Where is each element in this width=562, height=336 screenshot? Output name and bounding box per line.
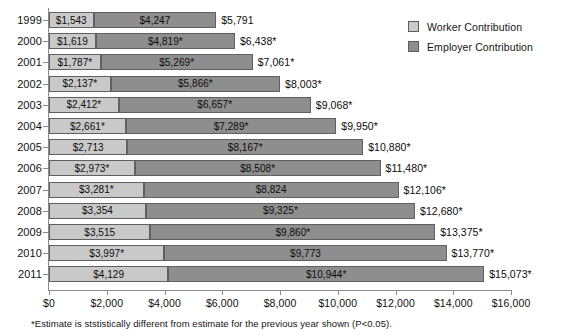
x-axis-tick-label-8000: $8,000 [264,297,297,309]
bar-row: 2004$2,661*$7,289*$9,950* [0,116,562,136]
bar-segment-worker: $3,354 [49,203,146,219]
bar-segment-worker: $1,543 [49,12,94,28]
y-axis-label-2001: 2001 [0,52,42,72]
bar-value-label-worker: $2,661* [70,121,105,132]
bar-segment-employer: $7,289* [126,118,336,134]
bar-segment-employer: $9,860* [150,224,435,240]
bar-value-label-worker: $2,973* [75,163,110,174]
bar-segment-employer: $4,247 [94,12,217,28]
y-axis-label-1999: 1999 [0,10,42,30]
bar-total-label: $9,950* [341,118,378,134]
y-axis-label-2004: 2004 [0,116,42,136]
bar-value-label-worker: $2,713 [73,142,104,153]
y-axis-label-2002: 2002 [0,74,42,94]
stacked-bar-chart: Worker Contribution Employer Contributio… [0,0,562,336]
chart-footnote: *Estimate is ststistically different fro… [31,318,392,329]
bar-value-label-employer: $4,247 [139,15,170,26]
bar-value-label-worker: $3,354 [82,205,113,216]
bar-value-label-employer: $8,824 [256,184,287,195]
bar-segment-worker: $1,787* [49,54,101,70]
bar-segment-employer: $9,773 [164,245,446,261]
x-axis-tick [396,290,397,295]
bar-row: 2010$3,997*$9,773$13,770* [0,243,562,263]
x-axis-tick-label-12000: $12,000 [376,297,415,309]
bar-value-label-employer: $9,325* [263,205,298,216]
bar-segment-worker: $2,973* [49,160,135,176]
x-axis-tick-label-16000: $16,000 [492,297,531,309]
bar-row: 2009$3,515$9,860*$13,375* [0,222,562,242]
bar-segment-employer: $5,866* [111,76,280,92]
bar-value-label-employer: $8,508* [240,163,275,174]
bar-value-label-worker: $1,787* [57,57,92,68]
bar-segment-worker: $3,281* [49,182,144,198]
bar-value-label-worker: $3,515 [84,227,115,238]
x-axis-tick [453,290,454,295]
bar-value-label-worker: $2,137* [62,78,97,89]
bar-value-label-employer: $9,773 [290,248,321,259]
bar-segment-employer: $4,819* [96,33,235,49]
bar-segment-employer: $8,167* [127,139,363,155]
bar-row: 2006$2,973*$8,508*$11,480* [0,158,562,178]
bar-total-label: $11,480* [386,160,428,176]
bar-total-label: $12,680* [420,203,462,219]
bar-segment-employer: $8,824 [144,182,399,198]
y-axis-label-2008: 2008 [0,201,42,221]
x-axis-tick [107,290,108,295]
x-axis-tick [338,290,339,295]
y-axis-label-2010: 2010 [0,243,42,263]
bar-value-label-employer: $10,944* [306,269,346,280]
bar-row: 2011$4,129$10,944*$15,073* [0,264,562,284]
bar-row: 2008$3,354$9,325*$12,680* [0,201,562,221]
y-axis-label-2000: 2000 [0,31,42,51]
x-axis-tick [222,290,223,295]
bar-total-label: $13,770* [452,245,494,261]
y-axis-label-2006: 2006 [0,158,42,178]
x-axis-tick-label-0: $0 [43,297,55,309]
plot-area: 1999$1,543$4,247$5,7912000$1,619$4,819*$… [0,8,562,290]
bar-row: 2005$2,713$8,167*$10,880* [0,137,562,157]
bar-total-label: $6,438* [240,33,277,49]
bar-segment-worker: $1,619 [49,33,96,49]
bar-total-label: $10,880* [368,139,410,155]
bar-total-label: $12,106* [404,182,446,198]
bar-segment-worker: $3,997* [49,245,164,261]
x-axis-tick-label-10000: $10,000 [318,297,357,309]
bar-segment-employer: $10,944* [168,266,484,282]
bar-row: 2001$1,787*$5,269*$7,061* [0,52,562,72]
bar-segment-employer: $6,657* [119,97,311,113]
bar-value-label-employer: $9,860* [275,227,310,238]
bar-value-label-employer: $4,819* [148,36,183,47]
bar-value-label-worker: $3,997* [89,248,124,259]
bar-segment-employer: $8,508* [135,160,381,176]
bar-segment-employer: $9,325* [146,203,415,219]
x-axis-tick [280,290,281,295]
x-axis-tick-label-4000: $4,000 [148,297,181,309]
bar-value-label-worker: $4,129 [93,269,124,280]
bar-segment-employer: $5,269* [101,54,253,70]
bar-row: 1999$1,543$4,247$5,791 [0,10,562,30]
x-axis-tick [49,290,50,295]
bar-row: 2007$3,281*$8,824$12,106* [0,180,562,200]
bar-total-label: $13,375* [440,224,482,240]
bar-value-label-worker: $3,281* [79,184,114,195]
bar-total-label: $7,061* [258,54,295,70]
bar-value-label-employer: $6,657* [197,99,232,110]
x-axis-tick [165,290,166,295]
bar-row: 2003$2,412*$6,657*$9,068* [0,95,562,115]
bar-total-label: $8,003* [285,76,322,92]
x-axis-tick-label-14000: $14,000 [434,297,473,309]
bar-row: 2002$2,137*$5,866*$8,003* [0,74,562,94]
bar-value-label-worker: $2,412* [66,99,101,110]
bar-segment-worker: $2,412* [49,97,119,113]
bar-row: 2000$1,619$4,819*$6,438* [0,31,562,51]
bar-value-label-worker: $1,619 [57,36,88,47]
y-axis-label-2007: 2007 [0,180,42,200]
bar-value-label-employer: $5,866* [178,78,213,89]
bar-total-label: $5,791 [221,12,253,28]
y-axis-label-2003: 2003 [0,95,42,115]
bar-value-label-employer: $8,167* [228,142,263,153]
bar-segment-worker: $3,515 [49,224,150,240]
x-axis-tick-label-2000: $2,000 [90,297,123,309]
bar-total-label: $15,073* [489,266,531,282]
y-axis-label-2011: 2011 [0,264,42,284]
